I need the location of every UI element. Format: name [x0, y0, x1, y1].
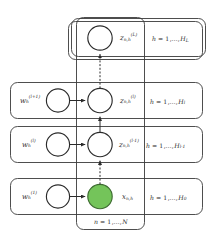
label-w-layer-l-minus-1: wh(l)	[22, 138, 36, 148]
node-z-layer-l-minus-1	[88, 132, 112, 156]
plate-outer-n-label: n=1,…,N	[94, 217, 128, 224]
node-w-layer-l-minus-1	[46, 133, 69, 156]
node-z-layer-l	[88, 88, 112, 112]
label-z-layer-L: zn,h(L)	[119, 32, 137, 42]
plate-label-layer-0: h=1,…,H0	[150, 193, 187, 201]
label-z-layer-l: zn,h(l)	[119, 94, 136, 104]
plate-label-layer-l-minus-1: h=1,…,Hl-1	[146, 141, 185, 149]
node-x-observed	[88, 184, 112, 208]
plate-label-layer-l: h=1,…,Hl	[150, 97, 186, 105]
label-z-layer-l-minus-1: zn,h(l-1)	[118, 138, 139, 148]
plate-notation-diagram: n=1,…,N zn,h(L) h=1,…,HL wh(l+1) zn,h(l)…	[0, 0, 213, 241]
node-w-layer-l	[46, 89, 69, 112]
node-z-layer-L	[88, 26, 112, 50]
label-x-observed: xn,h	[122, 193, 133, 201]
label-w-layer-l: wh(l+1)	[20, 94, 40, 104]
node-w-layer-0	[46, 185, 69, 208]
plate-label-layer-L: h=1,…,HL	[152, 35, 189, 43]
label-w-layer-0: wh(1)	[22, 190, 37, 200]
